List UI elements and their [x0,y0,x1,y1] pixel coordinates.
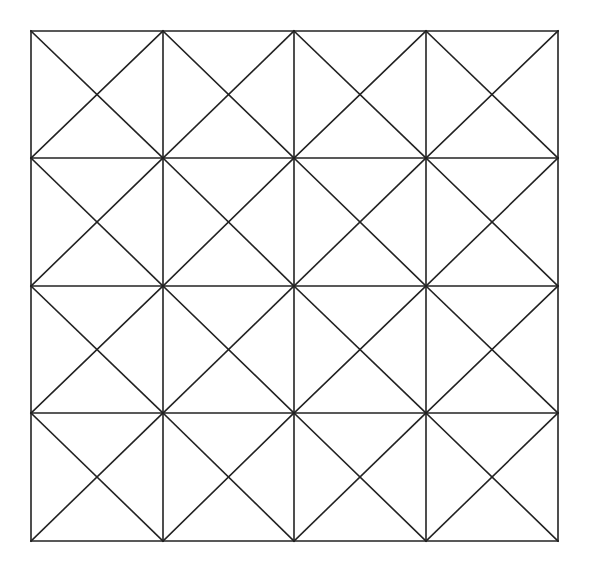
diagonal-grid-diagram [0,0,589,570]
